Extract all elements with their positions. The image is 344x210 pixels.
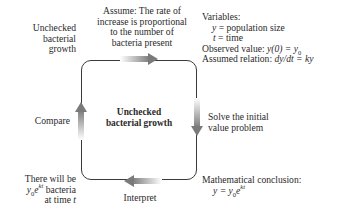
bl-base: e	[34, 184, 38, 195]
var-t-def: = time	[218, 32, 243, 43]
assumed-label: Assumed relation:	[202, 53, 274, 64]
left-arrow-label: Compare	[0, 116, 70, 127]
eq-lhs: y = y	[213, 185, 233, 196]
assumed-expr: dy/dt = ky	[274, 53, 313, 64]
right-arrow-line2: value problem	[208, 123, 269, 134]
bottom-arrow-label: Interpret	[105, 193, 175, 204]
bl-sup: kt	[39, 182, 44, 189]
right-arrow-label: Solve the initial value problem	[208, 112, 269, 133]
variables-block: Variables: y = population size t = time …	[202, 12, 313, 65]
var-t: t	[213, 32, 216, 43]
observed-label: Observed value:	[202, 43, 267, 54]
bl-line3-text: at time	[45, 194, 74, 205]
var-y: y	[212, 22, 216, 33]
bl-rest: bacteria	[43, 184, 76, 195]
center-label-line2: bacterial growth	[81, 118, 197, 129]
bottom-left-line3: at time t	[0, 195, 76, 206]
arrow-down-icon	[190, 98, 204, 138]
observed-expr: y(0) = y	[267, 43, 298, 54]
bl-line3-var: t	[73, 194, 76, 205]
center-label: Unchecked bacterial growth	[81, 107, 197, 128]
arrow-left-icon	[122, 174, 162, 188]
right-arrow-line1: Solve the initial	[208, 112, 269, 123]
top-left-line1: Unchecked	[0, 23, 76, 34]
var-y-def: = population size	[219, 22, 285, 33]
center-label-line1: Unchecked	[81, 107, 197, 118]
conclusion-equation: y = y0ekt	[202, 186, 301, 197]
conclusion-block: Mathematical conclusion: y = y0ekt	[202, 175, 301, 196]
arrow-right-icon	[120, 52, 160, 66]
arrow-up-icon	[74, 100, 88, 140]
top-arrow-line1: Assume: The rate of	[86, 6, 198, 17]
assumed-row: Assumed relation: dy/dt = ky	[202, 54, 313, 65]
bottom-left-label: There will be y0ekt bacteria at time t	[0, 174, 76, 206]
eq-sup: kt	[240, 183, 245, 190]
top-left-label: Unchecked bacterial growth	[0, 23, 76, 55]
top-arrow-line4: bacteria present	[86, 38, 198, 49]
top-left-line3: growth	[0, 44, 76, 55]
top-arrow-label: Assume: The rate of increase is proporti…	[86, 6, 198, 48]
